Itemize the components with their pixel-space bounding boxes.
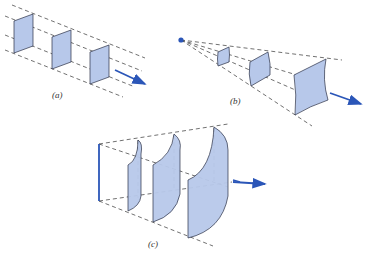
panel-label-c: (c) (148, 239, 158, 249)
panel-b (178, 37, 361, 126)
plane-wavefronts (14, 14, 109, 84)
panel-a (5, 5, 145, 97)
point-source-icon (178, 37, 183, 42)
propagation-arrow-a (115, 70, 145, 84)
panel-label-a: (a) (52, 90, 63, 100)
panel-c (99, 124, 265, 246)
wave-diagram (0, 0, 368, 259)
cylindrical-wavefronts (128, 127, 228, 238)
propagation-arrow-b (330, 93, 361, 104)
propagation-arrow-c (233, 182, 265, 184)
panel-label-b: (b) (230, 96, 241, 106)
